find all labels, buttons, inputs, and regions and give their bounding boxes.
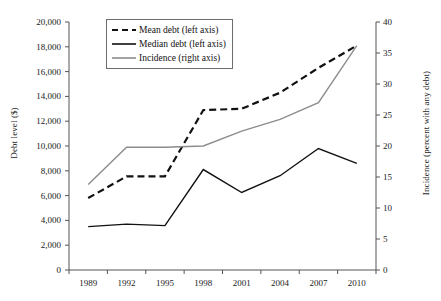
dashed-line-swatch [111,25,137,35]
y-axis-left-tick-label: 4,000 [15,215,61,225]
chart-legend: Mean debt (left axis) Median debt (left … [106,19,233,69]
y-axis-left-tick-label: 2,000 [15,240,61,250]
legend-label-incidence: Incidence (right axis) [139,53,220,63]
y-axis-left-tick-label: 14,000 [15,91,61,101]
y-axis-left-tick-label: 18,000 [15,42,61,52]
series-line [88,148,357,226]
legend-item-mean-debt: Mean debt (left axis) [111,23,226,37]
y-axis-right-tick-label: 40 [383,17,417,27]
y-axis-right-tick-label: 35 [383,48,417,58]
y-axis-right-tick-label: 5 [383,234,417,244]
y-axis-left-tick-label: 8,000 [15,166,61,176]
y-axis-right-tick-label: 15 [383,172,417,182]
chart-container: Debt level ($) Incidence (percent with a… [0,0,441,301]
y-axis-left-tick-label: 20,000 [15,17,61,27]
y-axis-left-tick-label: 6,000 [15,191,61,201]
y-axis-right-tick-label: 10 [383,203,417,213]
y-axis-right-tick-label: 25 [383,110,417,120]
legend-label-median-debt: Median debt (left axis) [139,39,226,49]
gray-line-swatch [111,53,137,63]
solid-line-swatch [111,39,137,49]
y-axis-left-tick-label: 12,000 [15,116,61,126]
legend-item-incidence: Incidence (right axis) [111,51,226,65]
y-axis-left-tick-label: 10,000 [15,141,61,151]
y-axis-right-tick-label: 0 [383,265,417,275]
legend-item-median-debt: Median debt (left axis) [111,37,226,51]
y-axis-left-tick-label: 16,000 [15,67,61,77]
x-axis-tick-label: 2010 [334,278,380,288]
legend-label-mean-debt: Mean debt (left axis) [139,25,218,35]
y-axis-right-tick-label: 20 [383,141,417,151]
y-axis-left-tick-label: 0 [15,265,61,275]
y-axis-right-tick-label: 30 [383,79,417,89]
